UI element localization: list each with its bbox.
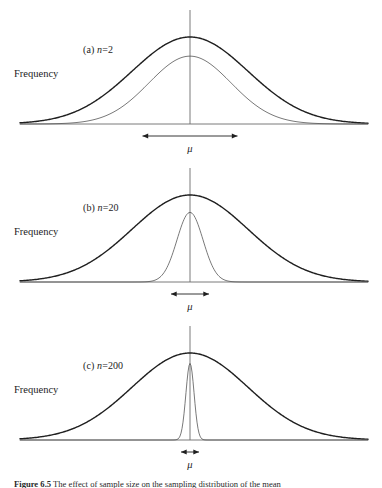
population-distribution-curve xyxy=(20,37,368,123)
panel-c-plot xyxy=(0,316,382,481)
mu-arrow-head-right xyxy=(232,133,238,138)
panel-a-plot xyxy=(0,0,382,165)
panel-a-mu-label: μ xyxy=(175,143,205,154)
mu-arrow-head-right xyxy=(193,449,199,454)
figure-caption-label: Figure 6.5 xyxy=(14,479,51,488)
panel-c-label: (c) n=200 xyxy=(83,360,123,371)
figure-caption: Figure 6.5 The effect of sample size on … xyxy=(14,479,374,488)
panel-b-label: (b) n=20 xyxy=(83,202,119,213)
panel-c-mu-label: μ xyxy=(175,459,205,470)
panel-b: (b) n=20 Frequency μ xyxy=(0,158,382,323)
mu-arrow-head-left xyxy=(171,291,177,296)
panel-b-plot xyxy=(0,158,382,323)
panel-a: (a) n=2 Frequency μ xyxy=(0,0,382,165)
panel-c: (c) n=200 Frequency μ xyxy=(0,316,382,481)
sampling-distribution-curve xyxy=(20,56,368,124)
figure-caption-text: The effect of sample size on the samplin… xyxy=(53,479,281,488)
panel-b-mu-label: μ xyxy=(175,301,205,312)
figure-root: (a) n=2 Frequency μ (b) n=20 Frequency μ… xyxy=(0,0,382,488)
mu-arrow-head-right xyxy=(203,291,209,296)
panel-c-frequency-label: Frequency xyxy=(14,384,58,395)
mu-arrow-head-left xyxy=(143,133,149,138)
population-distribution-curve xyxy=(20,195,368,281)
panel-a-label: (a) n=2 xyxy=(83,44,113,55)
panel-a-frequency-label: Frequency xyxy=(14,68,58,79)
panel-b-frequency-label: Frequency xyxy=(14,226,58,237)
mu-arrow-head-left xyxy=(181,449,187,454)
